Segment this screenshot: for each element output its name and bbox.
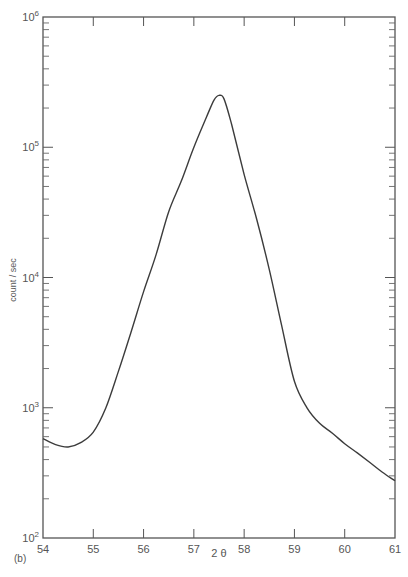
x-tick-label: 59 (288, 543, 300, 555)
y-tick-label: 106 (22, 9, 39, 23)
x-tick-label: 55 (87, 543, 99, 555)
x-tick-label: 58 (238, 543, 250, 555)
x-tick-label: 54 (37, 543, 49, 555)
y-tick-label: 104 (22, 270, 39, 284)
y-tick-labels: 102103104105106 (22, 9, 39, 544)
y-tick-label: 105 (22, 139, 39, 153)
panel-label: (b) (14, 553, 26, 564)
y-tick-label: 102 (22, 530, 39, 544)
x-tick-label: 56 (137, 543, 149, 555)
y-axis-label: count / sec (8, 258, 18, 302)
x-tick-label: 57 (188, 543, 200, 555)
x-tick-label: 61 (389, 543, 401, 555)
y-tick-label: 103 (22, 400, 39, 414)
chart: 5455565758596061 102103104105106 2 θ cou… (0, 0, 408, 577)
data-curve (43, 95, 395, 481)
x-axis-label: 2 θ (211, 547, 226, 559)
x-tick-label: 60 (339, 543, 351, 555)
